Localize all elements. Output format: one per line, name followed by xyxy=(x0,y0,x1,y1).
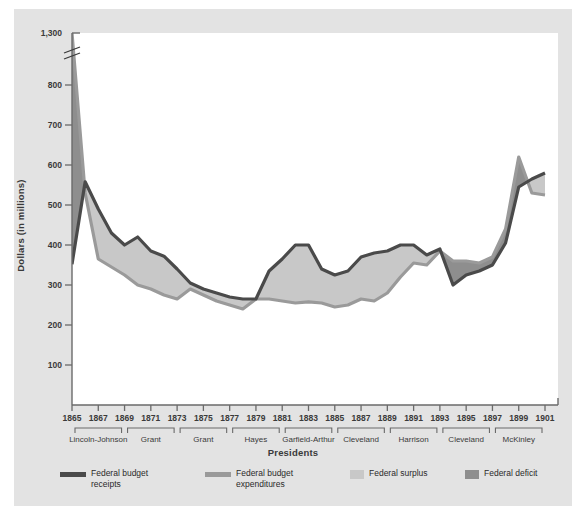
legend-label: Federal deficit xyxy=(484,468,537,479)
legend-swatch-icon xyxy=(60,472,86,477)
y-tick-700: 700 xyxy=(14,120,62,130)
y-axis-title: Dollars (in millions) xyxy=(15,166,26,286)
legend-item-federal-surplus[interactable]: Federal surplus xyxy=(350,468,428,479)
y-tick-300: 300 xyxy=(14,280,62,290)
era-bracket xyxy=(495,428,542,433)
y-tick-800: 800 xyxy=(14,80,62,90)
era-bracket xyxy=(443,428,490,433)
chart-figure: Dollars (in millions) Presidents 1002003… xyxy=(0,0,586,513)
legend-item-federal-budget-expenditures[interactable]: Federal budget expenditures xyxy=(205,468,293,489)
era-bracket xyxy=(128,428,175,433)
era-bracket xyxy=(390,428,437,433)
chart-legend: Federal budget receiptsFederal budget ex… xyxy=(20,466,568,500)
legend-item-federal-deficit[interactable]: Federal deficit xyxy=(465,468,537,479)
legend-swatch-icon xyxy=(465,470,479,479)
era-label-mckinley-8: McKinley xyxy=(474,435,564,444)
y-tick-400: 400 xyxy=(14,240,62,250)
president-era-brackets xyxy=(75,428,542,433)
y-tick-500: 500 xyxy=(14,200,62,210)
era-bracket xyxy=(285,428,332,433)
y-tick-100: 100 xyxy=(14,360,62,370)
y-tick-200: 200 xyxy=(14,320,62,330)
legend-item-federal-budget-receipts[interactable]: Federal budget receipts xyxy=(60,468,148,489)
legend-label: Federal budget expenditures xyxy=(236,468,293,489)
legend-swatch-icon xyxy=(350,470,364,479)
era-bracket xyxy=(75,428,122,433)
y-tick-1300: 1,300 xyxy=(14,28,62,38)
era-bracket xyxy=(233,428,280,433)
plot-area-background xyxy=(72,33,558,405)
legend-label: Federal surplus xyxy=(369,468,428,479)
era-bracket xyxy=(180,428,227,433)
x-axis-tick-marks xyxy=(72,405,545,411)
legend-swatch-icon xyxy=(205,472,231,477)
y-tick-600: 600 xyxy=(14,160,62,170)
x-axis-title: Presidents xyxy=(0,447,586,458)
y-axis-tick-marks xyxy=(65,85,72,365)
x-tick-1901: 1901 xyxy=(529,413,561,423)
era-bracket xyxy=(338,428,385,433)
legend-label: Federal budget receipts xyxy=(91,468,148,489)
